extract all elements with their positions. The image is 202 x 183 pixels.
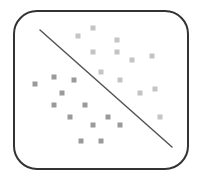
class-a-point [33, 82, 38, 87]
class-b-point [99, 70, 104, 75]
class-b-point [138, 91, 143, 96]
class-a-point [83, 103, 88, 108]
class-a-point [52, 75, 57, 80]
class-b-point [118, 78, 123, 83]
class-a-point [118, 123, 123, 128]
class-a-point [52, 103, 57, 108]
class-a-point [91, 123, 96, 128]
class-a-point [60, 91, 65, 96]
class-b-point [115, 50, 120, 55]
class-b-point [158, 115, 163, 120]
class-a-point [106, 115, 111, 120]
class-a-point [99, 139, 104, 144]
class-b-point [115, 38, 120, 43]
class-b-point [150, 54, 155, 59]
class-b-point [76, 34, 81, 39]
class-b-point [91, 50, 96, 55]
class-b-point [130, 58, 135, 63]
class-a-point [68, 115, 73, 120]
classifier-plot [0, 0, 202, 183]
class-b-point [153, 87, 158, 92]
class-b-point [91, 26, 96, 31]
class-a-point [72, 78, 77, 83]
class-a-point [79, 139, 84, 144]
decision-boundary-line [40, 30, 172, 147]
class-a-points [33, 75, 123, 144]
